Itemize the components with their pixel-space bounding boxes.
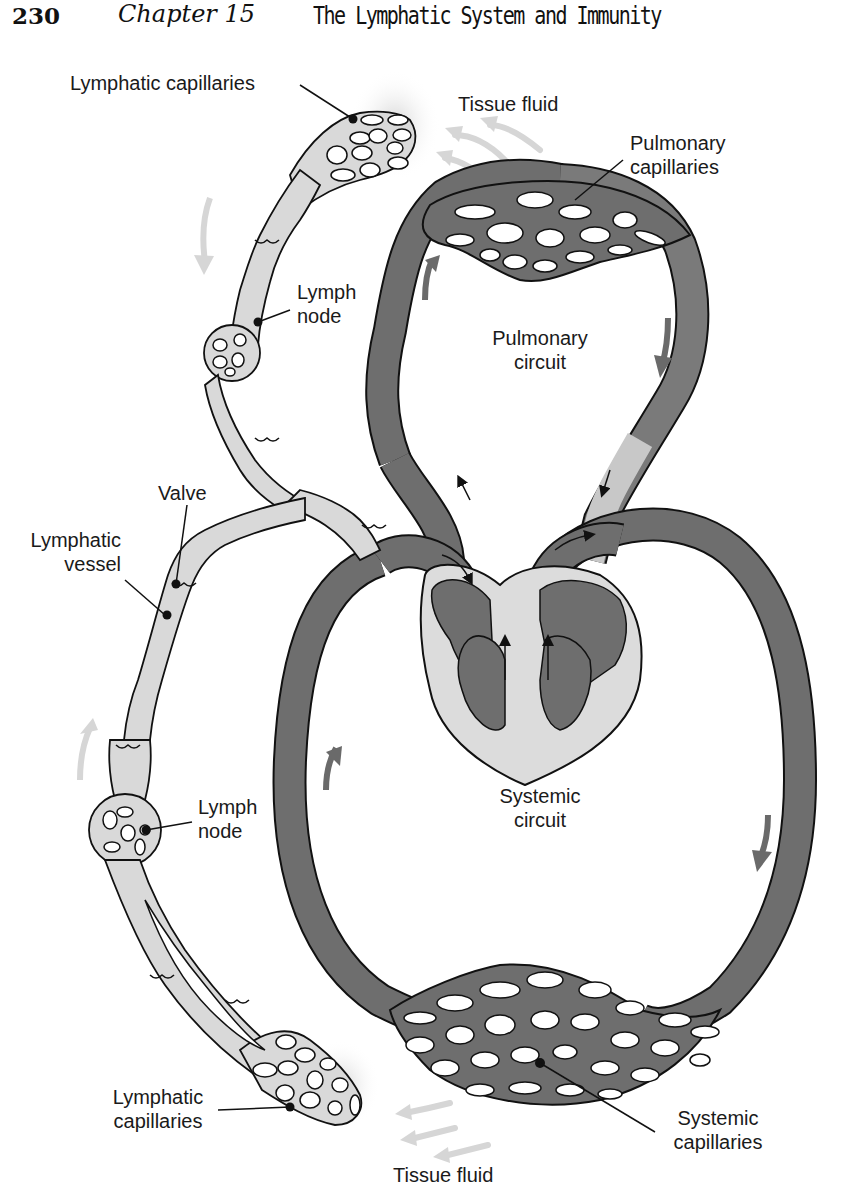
- label-lymph-node-top: Lymph node: [297, 280, 356, 328]
- label-tissue-fluid-top: Tissue fluid: [458, 92, 558, 116]
- lymph-flow-arrow-top: [194, 198, 214, 275]
- label-lymphatic-vessel: Lymphatic vessel: [13, 528, 121, 576]
- label-pulmonary-circuit: Pulmonary circuit: [480, 326, 600, 374]
- label-lymphatic-capillaries-bottom: Lymphatic capillaries: [98, 1085, 218, 1133]
- label-systemic-capillaries: Systemic capillaries: [658, 1106, 778, 1154]
- label-systemic-circuit: Systemic circuit: [480, 784, 600, 832]
- label-valve: Valve: [158, 481, 207, 505]
- label-tissue-fluid-bottom: Tissue fluid: [393, 1163, 493, 1187]
- systemic-capillary-bed: [390, 964, 720, 1104]
- label-pulmonary-capillaries: Pulmonary capillaries: [630, 131, 726, 179]
- label-lymph-node-bottom: Lymph node: [198, 795, 257, 843]
- lymph-flow-arrow-bottom: [80, 718, 98, 780]
- label-lymphatic-capillaries-top: Lymphatic capillaries: [70, 71, 255, 95]
- tissue-fluid-arrows-bottom: [410, 1103, 488, 1155]
- tissue-fluid-arrowheads-top: [436, 116, 498, 166]
